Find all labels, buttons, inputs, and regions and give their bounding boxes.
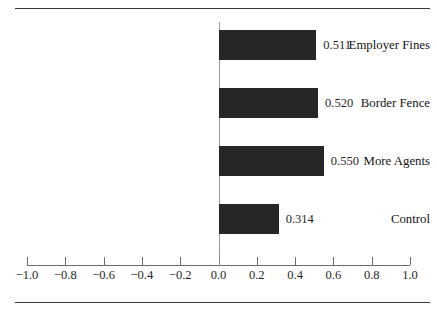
bar-value-label: 0.314 bbox=[286, 211, 314, 227]
x-axis-tick bbox=[333, 257, 334, 265]
x-axis-tick bbox=[104, 257, 105, 265]
x-axis-tick-label: −1.0 bbox=[16, 268, 39, 283]
bar-category-label: Control bbox=[212, 211, 437, 227]
x-axis-tick bbox=[372, 257, 373, 265]
x-axis-tick bbox=[27, 257, 28, 265]
bar-value-label: 0.550 bbox=[331, 153, 359, 169]
x-axis-tick bbox=[219, 252, 220, 265]
x-axis-tick-label: 0.6 bbox=[326, 268, 342, 283]
bar-value-label: 0.511 bbox=[323, 37, 351, 53]
bar-category-label: More Agents bbox=[212, 153, 437, 169]
x-axis-tick bbox=[257, 257, 258, 265]
x-axis-tick-label: 0.0 bbox=[211, 268, 227, 283]
x-axis-tick bbox=[410, 257, 411, 265]
x-axis-tick bbox=[65, 257, 66, 265]
x-axis-tick-label: −0.6 bbox=[92, 268, 115, 283]
x-axis-tick-label: 0.8 bbox=[364, 268, 380, 283]
x-axis-tick bbox=[180, 257, 181, 265]
x-axis-tick-label: −0.2 bbox=[169, 268, 192, 283]
x-axis-tick-label: 0.4 bbox=[287, 268, 303, 283]
x-axis-tick bbox=[142, 257, 143, 265]
x-axis-tick-label: 1.0 bbox=[402, 268, 418, 283]
x-axis-tick-label: −0.8 bbox=[54, 268, 77, 283]
bar-value-label: 0.520 bbox=[325, 95, 353, 111]
x-axis-tick-label: −0.4 bbox=[131, 268, 154, 283]
bar-chart-plot-area: −1.0−0.8−0.6−0.4−0.20.00.20.40.60.81.0Em… bbox=[0, 0, 437, 310]
x-axis-tick-label: 0.2 bbox=[249, 268, 265, 283]
x-axis-tick bbox=[295, 257, 296, 265]
